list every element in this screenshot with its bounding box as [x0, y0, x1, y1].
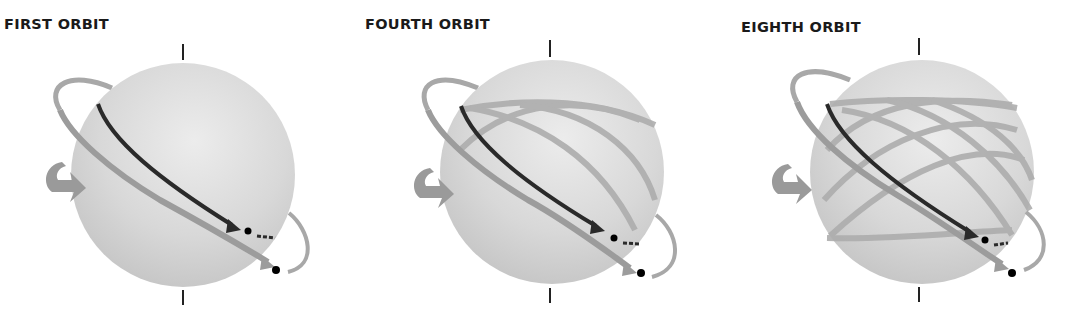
earth-sphere [440, 60, 664, 284]
orbit-ring-front [288, 213, 308, 272]
satellite-marker [272, 266, 280, 274]
panel-eighth-orbit: EIGHTH ORBIT [712, 0, 1069, 323]
dashed-path [257, 236, 275, 238]
satellite-marker [611, 235, 618, 242]
earth-sphere [71, 63, 295, 287]
orbit-diagram [712, 0, 1072, 323]
orbit-diagram [0, 0, 357, 323]
satellite-marker [637, 269, 645, 277]
orbit-arrowhead-icon [994, 258, 1009, 272]
satellite-marker [245, 228, 252, 235]
orbit-diagram [360, 0, 717, 323]
panel-first-orbit: FIRST ORBIT [0, 0, 357, 323]
dashed-path [623, 243, 640, 244]
rotation-arrow-icon [772, 164, 812, 204]
satellite-marker [982, 237, 989, 244]
satellite-marker [1008, 269, 1016, 277]
orbit-ring-front [1024, 212, 1044, 270]
orbit-ring-front [652, 215, 675, 277]
panel-fourth-orbit: FOURTH ORBIT [360, 0, 717, 323]
